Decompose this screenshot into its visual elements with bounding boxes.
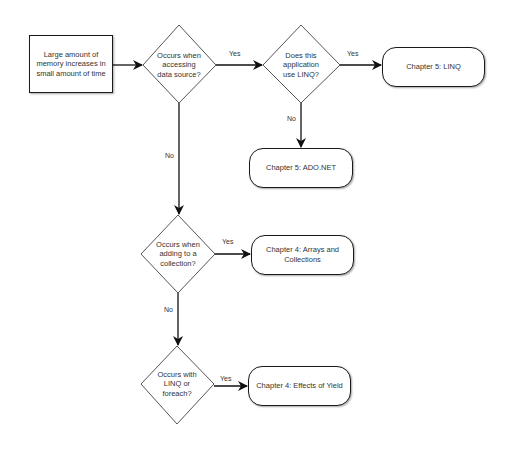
- outcome-arrays-box: Chapter 4: Arrays and Collections: [251, 235, 354, 275]
- decision-4-text: Occurs with LINQ or foreach?: [154, 364, 200, 404]
- edge-label-d2-no: No: [287, 115, 296, 122]
- decision-3-text: Occurs when adding to a collection?: [153, 234, 203, 274]
- decision-1-text: Occurs when accessing data source?: [155, 45, 203, 85]
- edge-label-d1-yes: Yes: [229, 50, 240, 57]
- outcome-linq-box: Chapter 5: LINQ: [382, 47, 485, 87]
- outcome-adonet-text: Chapter 5: ADO.NET: [266, 163, 336, 173]
- edge-label-d4-yes: Yes: [220, 375, 231, 382]
- outcome-yield-box: Chapter 4: Effects of Yield: [248, 366, 351, 406]
- edge-label-d2-yes: Yes: [347, 50, 358, 57]
- decision-2-text: Does this application use LINQ?: [276, 45, 326, 85]
- outcome-yield-text: Chapter 4: Effects of Yield: [256, 381, 343, 391]
- start-process-box: Large amount of memory increases in smal…: [29, 35, 113, 93]
- start-process-text: Large amount of memory increases in smal…: [36, 50, 106, 79]
- edge-label-d1-no: No: [165, 152, 174, 159]
- outcome-arrays-text: Chapter 4: Arrays and Collections: [264, 245, 341, 264]
- outcome-adonet-box: Chapter 5: ADO.NET: [249, 148, 353, 188]
- edge-label-d3-no: No: [164, 306, 173, 313]
- outcome-linq-text: Chapter 5: LINQ: [406, 62, 461, 72]
- edge-label-d3-yes: Yes: [222, 238, 233, 245]
